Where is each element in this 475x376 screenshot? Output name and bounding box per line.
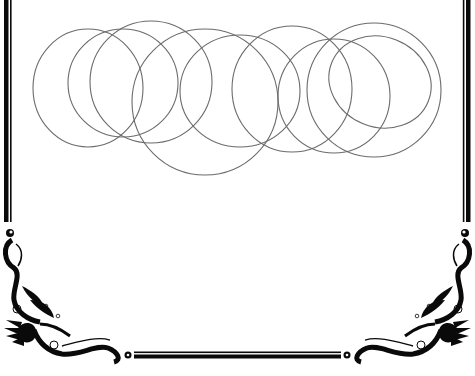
outline-circle-8 (307, 23, 441, 157)
bottom-left-flourish-ornament (4, 229, 132, 362)
outline-circle-2 (68, 29, 178, 137)
overlapping-circles (33, 21, 445, 175)
outline-circle-4 (132, 29, 278, 175)
bottom-right-flourish-ornament (344, 229, 472, 362)
decorative-frame-canvas (0, 0, 475, 376)
left-border (4, 0, 12, 222)
outline-circle-1 (33, 29, 143, 147)
outline-circle-7 (278, 39, 390, 153)
right-border (463, 0, 471, 222)
bottom-border (134, 352, 341, 359)
outline-circle-5 (180, 35, 300, 147)
outline-circle-3 (90, 21, 212, 143)
frame-illustration (0, 0, 475, 376)
